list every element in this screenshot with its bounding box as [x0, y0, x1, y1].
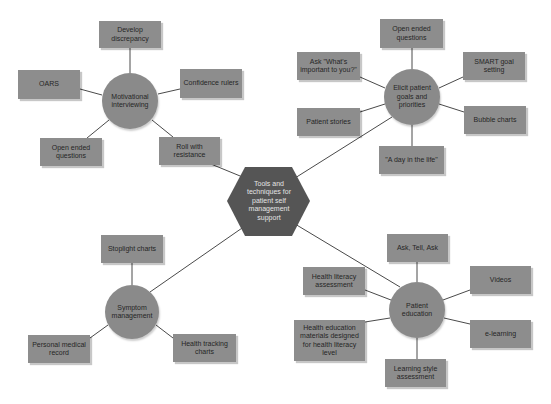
leaf-a-day-in-the-life: "A day in the life"	[379, 146, 444, 174]
hub-symptom-management: Symptom management	[105, 285, 159, 339]
leaf-ask-tell-ask: Ask, Tell, Ask	[387, 234, 448, 262]
leaf-ask-whats-important: Ask "What's important to you?"	[297, 52, 360, 80]
leaf-e-learning: e-learning	[470, 320, 531, 348]
leaf-personal-medical-record: Personal medical record	[28, 335, 90, 363]
leaf-open-ended-questions-goals: Open ended questions	[380, 19, 443, 48]
hub-patient-education: Patient education	[389, 282, 445, 338]
leaf-stoplight-charts: Stoplight charts	[101, 235, 163, 263]
leaf-patient-stories: Patient stories	[297, 108, 360, 136]
mind-map: Tools and techniques for patient self ma…	[0, 0, 551, 404]
leaf-smart-goal-setting: SMART goal setting	[463, 52, 525, 80]
leaf-bubble-charts: Bubble charts	[464, 106, 526, 134]
leaf-roll-with-resistance: Roll with resistance	[159, 137, 220, 165]
leaf-health-literacy-assessment: Health literacy assessment	[303, 267, 365, 295]
hub-elicit-patient-goals: Elicit patient goals and priorities	[384, 69, 440, 125]
leaf-oars: OARS	[18, 70, 80, 99]
leaf-videos: Videos	[470, 266, 531, 294]
leaf-open-ended-questions-mi: Open ended questions	[40, 138, 102, 166]
leaf-health-education-materials: Health education materials designed for …	[294, 320, 365, 361]
leaf-develop-discrepancy: Develop discrepancy	[99, 21, 161, 48]
center-label: Tools and techniques for patient self ma…	[238, 170, 300, 232]
leaf-confidence-rulers: Confidence rulers	[180, 69, 242, 98]
leaf-learning-style-assessment: Learning style assessment	[385, 359, 446, 387]
hub-motivational-interviewing: Motivational interviewing	[102, 73, 158, 129]
leaf-health-tracking-charts: Health tracking charts	[173, 334, 236, 362]
